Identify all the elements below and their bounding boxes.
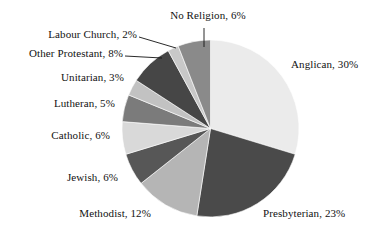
slice-label-jewish: Jewish, 6% [0,172,118,183]
leader-line-labour-church [139,37,176,48]
slice-label-unitarian: Unitarian, 3% [0,72,124,83]
slice-label-methodist: Methodist, 12% [0,208,151,219]
slice-label-labour-church: Labour Church, 2% [0,29,137,40]
pie-slice-group [122,40,299,217]
leader-line-other-protestant [125,56,162,58]
slice-label-no-religion: No Religion, 6% [163,10,253,21]
pie-chart-figure: No Religion, 6% Labour Church, 2% Other … [0,0,378,237]
slice-label-lutheran: Lutheran, 5% [0,98,115,109]
slice-label-catholic: Catholic, 6% [0,130,110,141]
slice-label-presbyterian: Presbyterian, 23% [263,208,345,219]
slice-label-anglican: Anglican, 30% [291,59,358,70]
slice-label-other-protestant: Other Protestant, 8% [0,48,123,59]
